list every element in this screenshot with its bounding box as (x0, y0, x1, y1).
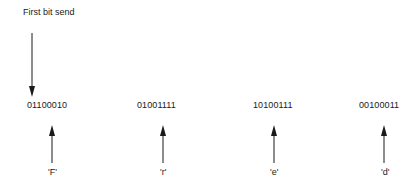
char-label-F: 'F' (48, 168, 57, 177)
char-label-r: 'r' (160, 168, 166, 177)
up-arrow-icon-r (160, 125, 166, 163)
char-label-e: 'e' (270, 168, 278, 177)
up-arrow-icon-e (271, 125, 277, 163)
up-arrow-icon-d (381, 125, 387, 163)
arrows-layer (0, 0, 415, 188)
byte-bits-d: 00100011 (359, 101, 399, 110)
down-arrow-icon (29, 33, 35, 97)
up-arrow-icon-F (49, 125, 55, 163)
byte-bits-F: 01100010 (27, 101, 67, 110)
char-label-d: 'd' (381, 168, 389, 177)
byte-bits-r: 01001111 (137, 101, 176, 110)
byte-bits-e: 10100111 (253, 101, 293, 110)
